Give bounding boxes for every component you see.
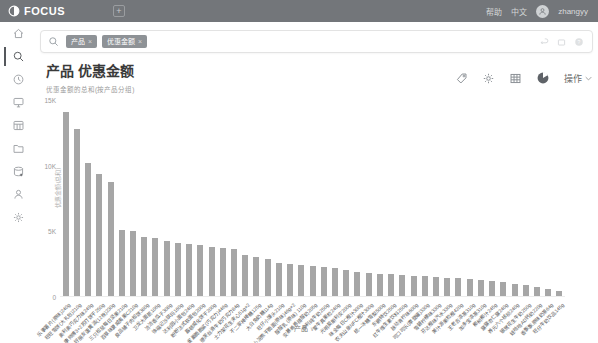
history-icon xyxy=(12,73,25,86)
sidebar-item-datasource[interactable] xyxy=(0,160,36,183)
focus-logo-icon xyxy=(8,5,20,17)
bar[interactable] xyxy=(209,247,215,296)
username[interactable]: zhangyy xyxy=(558,7,588,16)
chart-toolbar: 操作 xyxy=(455,60,592,94)
keyword-tag-icon[interactable] xyxy=(455,72,468,85)
bar[interactable] xyxy=(478,280,484,296)
bar[interactable] xyxy=(545,289,551,296)
bar[interactable] xyxy=(276,263,282,296)
y-tick-label: 15K xyxy=(44,97,56,104)
bar[interactable] xyxy=(220,248,226,296)
bar[interactable] xyxy=(186,244,192,296)
x-axis-title[interactable]: 产品∨ xyxy=(40,323,568,333)
bar[interactable] xyxy=(500,282,506,296)
frame-icon[interactable] xyxy=(557,33,566,51)
bar[interactable] xyxy=(152,238,158,296)
chip-close-icon[interactable]: × xyxy=(88,38,92,45)
bar[interactable] xyxy=(534,287,540,296)
bar[interactable] xyxy=(388,274,394,296)
bar[interactable] xyxy=(433,277,439,296)
add-icon[interactable]: + xyxy=(113,5,125,17)
bar[interactable] xyxy=(523,285,529,296)
datasource-icon xyxy=(12,165,25,178)
bar[interactable] xyxy=(366,273,372,296)
bar[interactable] xyxy=(422,276,428,296)
bar[interactable] xyxy=(310,266,316,296)
search-chip[interactable]: 产品× xyxy=(66,35,97,48)
sidebar-item-history[interactable] xyxy=(0,68,36,91)
table-view-icon[interactable] xyxy=(509,72,522,85)
page-title: 产品 优惠金额 xyxy=(46,60,134,80)
lang-link[interactable]: 中文 xyxy=(511,6,527,17)
svg-text:?: ? xyxy=(578,38,581,44)
bar[interactable] xyxy=(455,278,461,296)
bar[interactable] xyxy=(197,245,203,296)
bar[interactable] xyxy=(130,231,136,296)
bar[interactable] xyxy=(63,112,69,296)
settings-icon xyxy=(12,211,25,224)
bar[interactable] xyxy=(512,284,518,296)
plot-area: 05K10K15K乐事薯片(原味)240g旺旺雪饼(大礼包)210g奥利奥巧克力… xyxy=(60,100,565,297)
bar[interactable] xyxy=(399,275,405,296)
y-tick-label: 5K xyxy=(48,228,56,235)
topbar-right: 帮助 中文 zhangyy xyxy=(486,5,588,18)
bar[interactable] xyxy=(242,255,248,296)
bar[interactable] xyxy=(253,257,259,296)
undo-icon[interactable] xyxy=(540,33,549,51)
y-tick-label: 10K xyxy=(44,162,56,169)
chip-close-icon[interactable]: × xyxy=(138,38,142,45)
chart-header: 产品 优惠金额 优惠金额的总和(按产品分组) 操作 xyxy=(46,60,592,94)
chart-subtitle: 优惠金额的总和(按产品分组) xyxy=(46,84,134,94)
bar[interactable] xyxy=(411,276,417,296)
bar[interactable] xyxy=(164,241,170,296)
chip-label: 产品 xyxy=(71,38,85,45)
bar[interactable] xyxy=(377,274,383,296)
bar[interactable] xyxy=(489,281,495,296)
bar[interactable] xyxy=(74,129,80,296)
bar[interactable] xyxy=(332,268,338,296)
bar[interactable] xyxy=(354,272,360,296)
avatar[interactable] xyxy=(536,5,549,18)
bar[interactable] xyxy=(85,163,91,296)
actions-dropdown[interactable]: 操作 xyxy=(564,72,592,85)
search-chip[interactable]: 优惠金额× xyxy=(102,35,147,48)
bar[interactable] xyxy=(298,265,304,296)
bar[interactable] xyxy=(287,264,293,296)
sidebar-item-home[interactable] xyxy=(0,22,36,45)
folder-icon xyxy=(12,142,25,155)
settings-gear-icon[interactable] xyxy=(482,72,495,85)
home-icon xyxy=(12,27,25,40)
bar[interactable] xyxy=(556,291,562,296)
datatable-icon xyxy=(12,119,25,132)
actions-label: 操作 xyxy=(564,72,582,85)
sidebar-item-settings[interactable] xyxy=(0,206,36,229)
x-axis-label: 产品 xyxy=(294,325,308,332)
sidebar-item-datatable[interactable] xyxy=(0,114,36,137)
help-circle-icon[interactable]: ? xyxy=(574,33,584,51)
sidebar-item-search[interactable] xyxy=(0,45,36,68)
bar[interactable] xyxy=(467,279,473,296)
chart-type-pie-icon[interactable] xyxy=(536,71,550,85)
bar[interactable] xyxy=(321,267,327,296)
chevron-down-icon: ∨ xyxy=(310,326,314,332)
bar-chart: 优惠金额(总和) 05K10K15K乐事薯片(原味)240g旺旺雪饼(大礼包)2… xyxy=(40,95,588,340)
bar[interactable] xyxy=(444,278,450,296)
searchbar-actions: ? xyxy=(540,33,584,51)
bar[interactable] xyxy=(175,243,181,296)
help-link[interactable]: 帮助 xyxy=(486,6,502,17)
sidebar-item-dashboard[interactable] xyxy=(0,91,36,114)
dashboard-icon xyxy=(12,96,25,109)
user-avatar-icon xyxy=(538,7,547,16)
bar[interactable] xyxy=(265,259,271,296)
search-bar[interactable]: 产品×优惠金额× ? xyxy=(40,30,593,53)
bar[interactable] xyxy=(108,182,114,296)
bar[interactable] xyxy=(141,237,147,296)
search-chips: 产品×优惠金额× xyxy=(66,35,147,48)
sidebar xyxy=(0,22,36,343)
sidebar-item-folder[interactable] xyxy=(0,137,36,160)
bar[interactable] xyxy=(231,249,237,296)
bar[interactable] xyxy=(343,270,349,296)
sidebar-item-user[interactable] xyxy=(0,183,36,206)
bar[interactable] xyxy=(119,230,125,296)
bar[interactable] xyxy=(96,174,102,296)
